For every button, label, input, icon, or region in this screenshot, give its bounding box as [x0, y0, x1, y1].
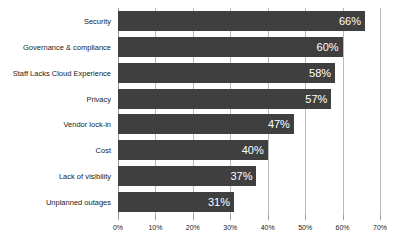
- bar[interactable]: 60%: [118, 37, 343, 57]
- category-label: Unplanned outages: [46, 198, 111, 207]
- x-tick-label: 30%: [223, 223, 237, 232]
- category-label: Security: [84, 16, 111, 25]
- category-label: Cost: [96, 146, 111, 155]
- x-tick-label: 20%: [186, 223, 200, 232]
- x-tick-label: 70%: [373, 223, 387, 232]
- bar-value-label: 37%: [230, 171, 252, 182]
- bar-chart: Security66%Governance & compliance60%Sta…: [0, 0, 407, 250]
- x-tick-label: 50%: [298, 223, 312, 232]
- plot-area: Security66%Governance & compliance60%Sta…: [118, 8, 380, 215]
- x-tick-label: 10%: [148, 223, 162, 232]
- x-tick-mark: [343, 215, 344, 220]
- category-label: Staff Lacks Cloud Experience: [13, 68, 111, 77]
- x-tick-mark: [268, 215, 269, 220]
- bar-value-label: 60%: [317, 41, 339, 52]
- bar-row: Staff Lacks Cloud Experience58%: [118, 63, 380, 83]
- x-tick-mark: [193, 215, 194, 220]
- bar-value-label: 58%: [309, 67, 331, 78]
- bar[interactable]: 31%: [118, 192, 234, 212]
- bar[interactable]: 40%: [118, 140, 268, 160]
- bar-row: Vendor lock-in47%: [118, 114, 380, 134]
- bar-row: Lack of visibility37%: [118, 166, 380, 186]
- bar-value-label: 31%: [208, 197, 230, 208]
- bar-value-label: 57%: [305, 93, 327, 104]
- bar-row: Unplanned outages31%: [118, 192, 380, 212]
- x-tick-label: 0%: [113, 223, 123, 232]
- bar-series: Security66%Governance & compliance60%Sta…: [118, 8, 380, 215]
- bar-row: Security66%: [118, 11, 380, 31]
- x-tick-mark: [155, 215, 156, 220]
- bar-row: Cost40%: [118, 140, 380, 160]
- x-tick-mark: [230, 215, 231, 220]
- x-axis: 0%10%20%30%40%50%60%70%: [118, 215, 380, 245]
- bar-value-label: 66%: [339, 15, 361, 26]
- x-tick-label: 60%: [336, 223, 350, 232]
- x-tick-mark: [305, 215, 306, 220]
- bar[interactable]: 37%: [118, 166, 256, 186]
- x-tick-label: 40%: [261, 223, 275, 232]
- gridline-70: [380, 8, 381, 215]
- bar-value-label: 47%: [268, 119, 290, 130]
- bar-row: Governance & compliance60%: [118, 37, 380, 57]
- bar[interactable]: 66%: [118, 11, 365, 31]
- x-tick-mark: [380, 215, 381, 220]
- bar-value-label: 40%: [242, 145, 264, 156]
- bar[interactable]: 57%: [118, 89, 331, 109]
- bar[interactable]: 47%: [118, 114, 294, 134]
- category-label: Lack of visibility: [59, 172, 111, 181]
- bar[interactable]: 58%: [118, 63, 335, 83]
- category-label: Governance & compliance: [23, 42, 111, 51]
- category-label: Vendor lock-in: [63, 120, 111, 129]
- x-tick-mark: [118, 215, 119, 220]
- category-label: Privacy: [86, 94, 111, 103]
- bar-row: Privacy57%: [118, 89, 380, 109]
